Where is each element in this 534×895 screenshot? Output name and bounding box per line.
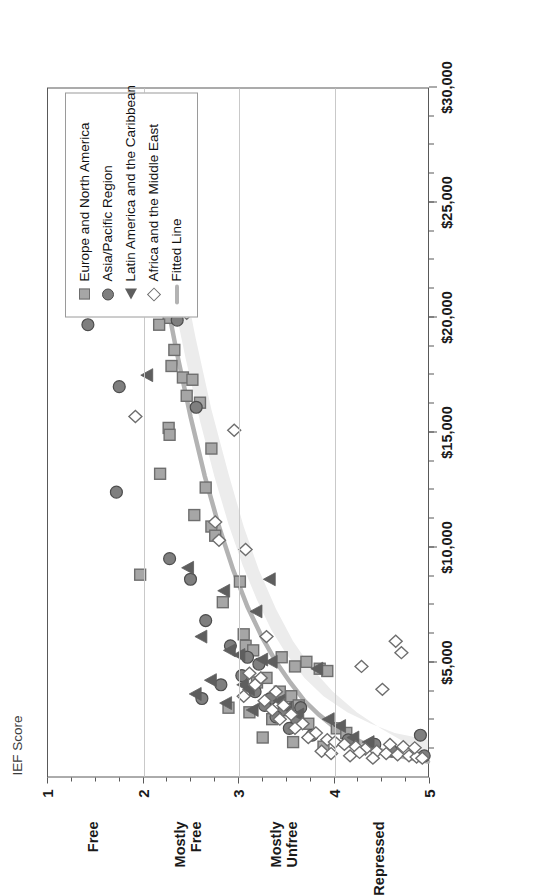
data-point-diamond: [260, 630, 273, 642]
axis-tick-minor: [214, 777, 215, 781]
data-point-diamond: [395, 646, 408, 658]
data-point-circle: [113, 380, 125, 392]
axis-tick-minor: [381, 777, 382, 781]
legend-label: Fitted Line: [169, 218, 184, 281]
category-label-2: Mostly Unfree: [268, 821, 300, 867]
gridline: [335, 88, 336, 776]
category-label-3: Repressed: [371, 821, 387, 895]
diamond-marker: [149, 281, 159, 307]
axis-tick: [429, 489, 434, 490]
data-point-circle: [190, 401, 202, 413]
data-point-square: [154, 319, 165, 330]
data-point-square: [288, 736, 299, 747]
data-point-square: [169, 344, 180, 355]
axis-tick-major: [429, 661, 437, 662]
axis-tick: [238, 777, 239, 783]
money-tick-label: $20,000: [439, 291, 455, 343]
axis-title-ief-score: IEF Score: [10, 715, 25, 775]
data-point-square: [166, 360, 177, 371]
data-point-circle: [82, 318, 94, 330]
legend-item-4[interactable]: Fitted Line: [165, 102, 188, 307]
data-point-circle: [200, 614, 212, 626]
data-point-triangle: [182, 561, 194, 574]
axis-tick: [334, 777, 335, 783]
score-tick-label: 4: [325, 789, 342, 797]
axis-tick: [429, 777, 430, 783]
money-tick-label: $10,000: [439, 521, 455, 573]
axis-tick-minor: [286, 777, 287, 781]
data-point-square: [187, 374, 198, 385]
line-swatch: [175, 281, 179, 307]
legend-label: Asia/Pacific Region: [100, 165, 115, 281]
legend-item-0[interactable]: Europe and North America: [73, 102, 96, 307]
data-point-square: [322, 665, 333, 676]
axis-tick: [47, 777, 48, 783]
score-tick-label: 2: [134, 789, 151, 797]
data-point-triangle: [263, 572, 275, 585]
data-point-diamond: [376, 683, 389, 695]
score-tick-label: 3: [230, 789, 247, 797]
axis-tick: [429, 690, 434, 691]
data-point-diamond: [389, 635, 402, 647]
data-point-circle: [414, 729, 426, 741]
data-point-circle: [164, 552, 176, 564]
ief-score-axis: 12345: [47, 777, 429, 817]
legend-label: Europe and North America: [77, 122, 92, 281]
freedom-category-labels: FreeMostly FreeMostly UnfreeRepressed: [47, 817, 429, 871]
data-point-triangle: [218, 584, 230, 597]
data-point-square: [181, 390, 192, 401]
circle-marker: [102, 281, 114, 307]
data-point-triangle: [189, 687, 201, 700]
axis-tick-minor: [357, 777, 358, 781]
money-axis: $5,000$10,000$15,000$20,000$25,000$30,00…: [429, 87, 469, 777]
axis-tick: [429, 460, 434, 461]
legend-item-2[interactable]: Latin America and the Caribbean: [119, 102, 142, 307]
axis-tick: [429, 144, 434, 145]
legend-item-1[interactable]: Asia/Pacific Region: [96, 102, 119, 307]
axis-tick: [429, 345, 434, 346]
axis-tick: [429, 517, 434, 518]
axis-tick: [429, 287, 434, 288]
square-marker: [79, 281, 90, 307]
data-point-square: [155, 468, 166, 479]
data-point-square: [217, 596, 228, 607]
data-point-circle: [110, 486, 122, 498]
data-point-square: [290, 660, 301, 671]
score-tick-label: 5: [421, 789, 438, 797]
axis-tick-major: [429, 201, 437, 202]
axis-tick: [429, 115, 434, 116]
data-point-diamond: [239, 543, 252, 555]
axis-tick: [429, 230, 434, 231]
data-point-diamond: [129, 410, 142, 422]
data-point-square: [276, 651, 287, 662]
axis-tick: [429, 747, 434, 748]
data-point-square: [206, 443, 217, 454]
axis-tick: [429, 632, 434, 633]
score-tick-label: 1: [39, 789, 56, 797]
money-tick-label: $5,000: [439, 640, 455, 684]
money-tick-label: $15,000: [439, 406, 455, 458]
axis-tick: [429, 259, 434, 260]
data-point-diamond: [355, 660, 368, 672]
category-label-1: Mostly Free: [172, 821, 204, 867]
axis-tick-minor: [71, 777, 72, 781]
data-point-square: [164, 429, 175, 440]
axis-tick-minor: [405, 777, 406, 781]
data-point-square: [301, 656, 312, 667]
axis-tick-minor: [310, 777, 311, 781]
data-point-triangle: [195, 630, 207, 643]
axis-tick-minor: [190, 777, 191, 781]
axis-tick-minor: [119, 777, 120, 781]
axis-tick: [429, 719, 434, 720]
data-point-square: [189, 509, 200, 520]
legend-item-3[interactable]: Africa and the Middle East: [142, 102, 165, 307]
axis-tick: [429, 374, 434, 375]
category-label-0: Free: [85, 821, 101, 852]
triangle-marker: [125, 281, 137, 307]
legend-label: Latin America and the Caribbean: [123, 84, 138, 281]
axis-tick-major: [429, 431, 437, 432]
axis-tick-minor: [262, 777, 263, 781]
money-tick-label: $25,000: [439, 176, 455, 228]
